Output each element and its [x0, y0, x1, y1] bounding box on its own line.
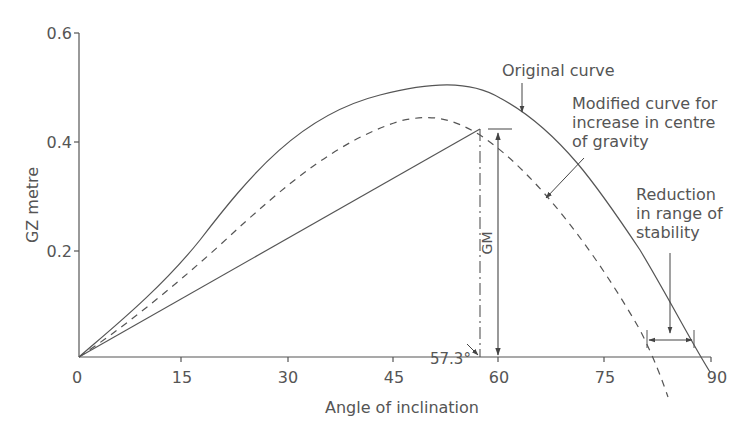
original-curve-label: Original curve: [502, 61, 615, 80]
x-tick-15: 15: [172, 368, 192, 387]
y-tick-0.6: 0.6: [47, 24, 72, 43]
modified-curve-label: Modified curve for increase in centre of…: [572, 94, 717, 151]
reduction-label-line1: Reduction: [636, 185, 723, 204]
modified-label-line1: Modified curve for: [572, 94, 717, 113]
x-axis-title: Angle of inclination: [325, 398, 479, 417]
gz-stability-diagram: 0.6 0.4 0.2 0 15 30 45 60 75 90 Angle of…: [0, 0, 747, 429]
modified-curve-pointer: [546, 158, 584, 198]
x-tick-60: 60: [489, 368, 509, 387]
x-tick-45: 45: [384, 368, 404, 387]
radian-angle-label: 57.3°: [430, 350, 471, 368]
x-tick-0: 0: [72, 368, 82, 387]
y-tick-0.4: 0.4: [47, 133, 72, 152]
reduction-label-line2: in range of: [636, 204, 723, 223]
modified-label-line2: increase in centre: [572, 113, 717, 132]
y-tick-0.2: 0.2: [47, 242, 72, 261]
y-axis-title: GZ metre: [23, 167, 42, 243]
gm-tangent-line: [79, 129, 480, 357]
axes: [74, 33, 711, 362]
modified-curve: [79, 118, 668, 397]
gm-label: GM: [479, 232, 495, 255]
modified-label-line3: of gravity: [572, 132, 717, 151]
x-tick-75: 75: [595, 368, 615, 387]
reduction-label: Reduction in range of stability: [636, 185, 723, 242]
reduction-label-line3: stability: [636, 223, 723, 242]
x-tick-30: 30: [278, 368, 298, 387]
